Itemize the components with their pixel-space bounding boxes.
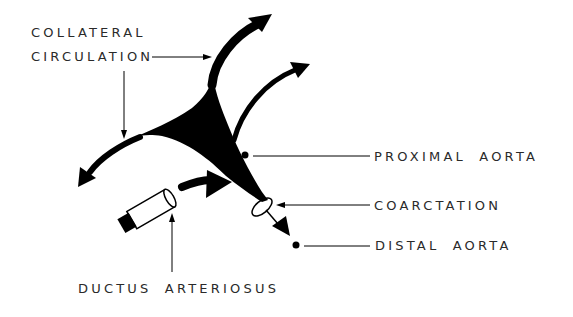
label-ductus-arteriosus: DUCTUS ARTERIOSUS — [78, 281, 279, 296]
distal-aorta-dot — [293, 242, 300, 249]
ductus-cylinder — [116, 187, 178, 234]
leader-arrow-collateral-v — [121, 130, 127, 139]
collateral-branch-left — [90, 137, 140, 172]
leader-arrow-coarctation — [276, 202, 285, 208]
label-collateral-line2: CIRCULATION — [31, 49, 153, 64]
label-coarctation: COARCTATION — [374, 198, 501, 213]
distal-flow-line — [266, 210, 278, 224]
leader-arrow-collateral-h — [203, 54, 212, 60]
ductus-flow — [182, 180, 210, 187]
collateral-branch-upper — [212, 24, 258, 85]
label-proximal-aorta: PROXIMAL AORTA — [374, 149, 538, 164]
proximal-aorta-dot — [242, 152, 249, 159]
collateral-branch-right — [234, 70, 295, 140]
label-distal-aorta: DISTAL AORTA — [375, 238, 512, 253]
label-collateral-line1: COLLATERAL — [31, 25, 146, 40]
leader-arrow-ductus — [169, 213, 175, 222]
